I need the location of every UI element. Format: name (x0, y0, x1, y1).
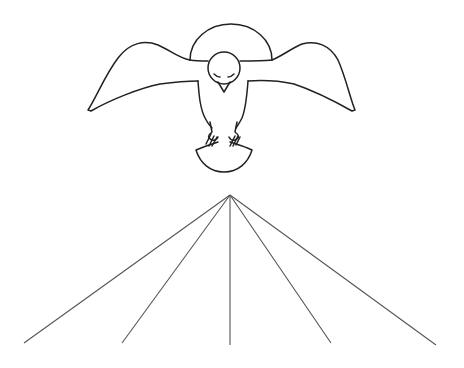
right-wing (248, 43, 355, 111)
ray-4 (230, 195, 331, 343)
right-eye-icon (228, 74, 234, 77)
illustration-canvas (0, 0, 464, 368)
ray-5 (230, 195, 436, 345)
head (208, 52, 240, 84)
body-left (198, 81, 212, 128)
left-wing (88, 43, 198, 111)
halo-base (190, 60, 272, 61)
ray-2 (122, 195, 230, 343)
rays (24, 195, 436, 345)
ray-1 (24, 195, 230, 343)
dove-illustration (0, 0, 464, 368)
bowl (196, 142, 252, 172)
body-right (236, 81, 248, 128)
left-eye-icon (214, 74, 220, 77)
halo-icon (190, 24, 272, 60)
